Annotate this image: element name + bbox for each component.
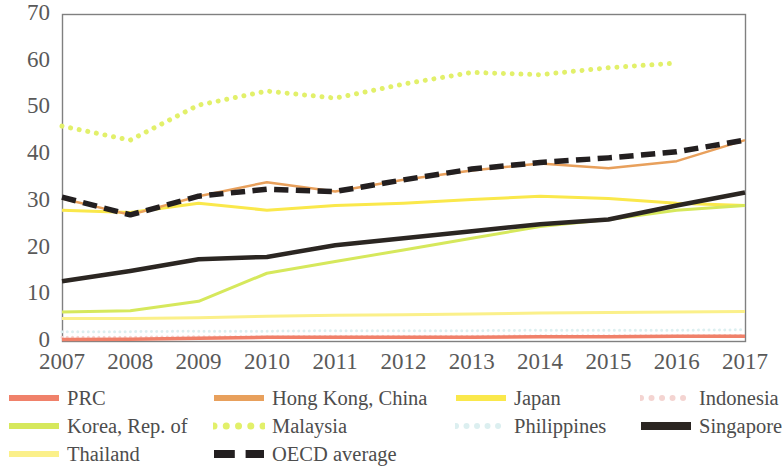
- legend-label: OECD average: [272, 444, 397, 465]
- plot-area: 706050403020100 200720082009201020112012…: [0, 0, 767, 383]
- x-axis-tick-2010: 2010: [232, 349, 302, 375]
- legend-label: Indonesia: [699, 388, 779, 409]
- plot-canvas: [0, 0, 767, 383]
- legend-item-prc[interactable]: PRC: [8, 385, 106, 411]
- legend-swatch-icon: [455, 417, 507, 435]
- x-axis-tick-2009: 2009: [164, 349, 234, 375]
- legend-swatch-icon: [213, 445, 265, 463]
- legend-item-oecd-average[interactable]: OECD average: [213, 441, 397, 467]
- legend-swatch-icon: [213, 389, 265, 407]
- x-axis-tick-2008: 2008: [95, 349, 165, 375]
- legend-label: Japan: [514, 388, 561, 409]
- legend-label: Hong Kong, China: [272, 388, 427, 409]
- y-axis-tick-50: 50: [0, 93, 50, 119]
- y-axis-tick-70: 70: [0, 0, 50, 26]
- y-axis-tick-10: 10: [0, 280, 50, 306]
- chart-legend: PRCHong Kong, ChinaJapanIndonesiaKorea, …: [0, 383, 767, 470]
- legend-label: Singapore: [699, 416, 782, 437]
- legend-item-indonesia[interactable]: Indonesia: [640, 385, 779, 411]
- y-axis-tick-30: 30: [0, 187, 50, 213]
- x-axis-tick-2016: 2016: [642, 349, 712, 375]
- legend-swatch-icon: [213, 417, 265, 435]
- legend-swatch-icon: [640, 417, 692, 435]
- y-axis-tick-60: 60: [0, 47, 50, 73]
- x-axis-tick-2013: 2013: [437, 349, 507, 375]
- y-axis-tick-20: 20: [0, 234, 50, 260]
- legend-swatch-icon: [8, 445, 60, 463]
- y-axis-tick-40: 40: [0, 140, 50, 166]
- x-axis-tick-2007: 2007: [27, 349, 97, 375]
- legend-label: Malaysia: [272, 416, 347, 437]
- legend-item-hong-kong-china[interactable]: Hong Kong, China: [213, 385, 427, 411]
- legend-label: Philippines: [514, 416, 606, 437]
- legend-swatch-icon: [455, 389, 507, 407]
- legend-label: PRC: [67, 388, 106, 409]
- x-axis-tick-2011: 2011: [300, 349, 370, 375]
- x-axis-tick-2017: 2017: [710, 349, 780, 375]
- x-axis-tick-2015: 2015: [573, 349, 643, 375]
- x-axis-tick-2012: 2012: [369, 349, 439, 375]
- legend-label: Thailand: [67, 444, 140, 465]
- legend-item-korea-rep-of[interactable]: Korea, Rep. of: [8, 413, 188, 439]
- legend-swatch-icon: [8, 389, 60, 407]
- legend-swatch-icon: [8, 417, 60, 435]
- legend-swatch-icon: [640, 389, 692, 407]
- legend-label: Korea, Rep. of: [67, 416, 188, 437]
- legend-item-malaysia[interactable]: Malaysia: [213, 413, 347, 439]
- legend-item-thailand[interactable]: Thailand: [8, 441, 140, 467]
- legend-item-japan[interactable]: Japan: [455, 385, 561, 411]
- legend-item-singapore[interactable]: Singapore: [640, 413, 782, 439]
- legend-item-philippines[interactable]: Philippines: [455, 413, 606, 439]
- x-axis-tick-2014: 2014: [505, 349, 575, 375]
